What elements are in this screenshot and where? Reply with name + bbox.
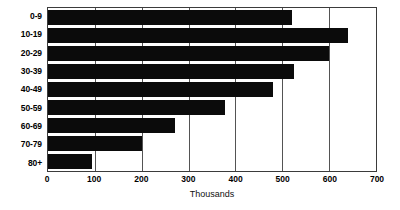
y-tick-label: 0-9 [0,7,45,25]
x-tick-label: 600 [323,175,337,184]
bar [48,64,294,79]
y-tick-label: 30-39 [0,62,45,80]
bar [48,46,329,61]
y-tick-label: 80+ [0,154,45,172]
bar [48,100,225,115]
bar-row [48,117,376,135]
x-tick-label: 700 [370,175,384,184]
bar-row [48,153,376,171]
bar-row [48,26,376,44]
x-axis: 0100200300400500600700 [47,173,377,187]
x-tick-label: 300 [181,175,195,184]
x-tick-label: 400 [228,175,242,184]
bar-row [48,99,376,117]
bar [48,82,273,97]
bar [48,10,292,25]
bar-row [48,80,376,98]
bars-layer [48,8,376,171]
x-axis-title: Thousands [47,190,377,199]
bar [48,118,175,133]
x-tick-label: 0 [45,175,50,184]
bar [48,154,92,169]
bar [48,28,348,43]
x-tick-label: 500 [276,175,290,184]
bar [48,136,142,151]
y-tick-label: 10-19 [0,25,45,43]
bar-row [48,44,376,62]
x-tick-label: 100 [87,175,101,184]
plot-area [47,7,377,172]
y-tick-label: 40-49 [0,80,45,98]
bar-row [48,8,376,26]
x-tick-label: 200 [134,175,148,184]
bar-row [48,135,376,153]
y-tick-label: 70-79 [0,135,45,153]
bar-row [48,62,376,80]
y-tick-label: 50-59 [0,99,45,117]
bar-chart: 0-910-1920-2930-3940-4950-5960-6970-7980… [0,0,400,210]
y-axis: 0-910-1920-2930-3940-4950-5960-6970-7980… [0,7,45,172]
y-tick-label: 60-69 [0,117,45,135]
y-tick-label: 20-29 [0,44,45,62]
